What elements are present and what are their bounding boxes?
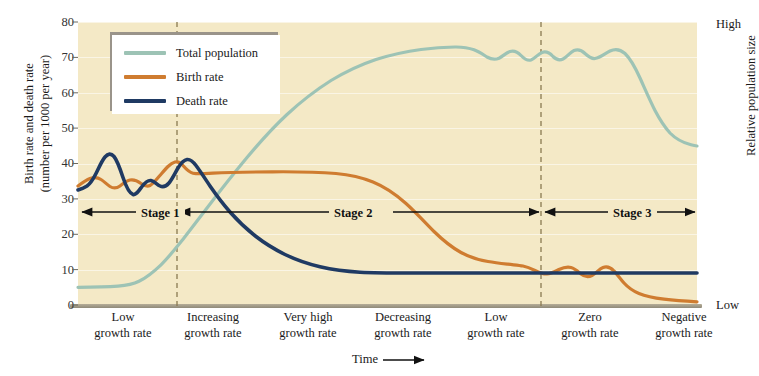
x-axis-title: Time: [352, 352, 378, 367]
legend-label-birth-rate: Birth rate: [176, 70, 224, 85]
right-axis-high-label: High: [716, 17, 741, 32]
x-label-6-line2: growth rate: [629, 326, 739, 342]
gridline-10: [78, 270, 697, 271]
y-axis-title: Birth rate and death rate (number per 10…: [22, 9, 53, 239]
legend-swatch-death-rate: [124, 99, 166, 103]
y-axis-title-line1: Birth rate and death rate: [22, 9, 38, 239]
legend-swatch-birth-rate: [124, 75, 166, 79]
legend-item-total-population[interactable]: Total population: [112, 41, 280, 65]
stage-label-3: Stage 3: [608, 206, 657, 221]
x-label-1-line1: Increasing: [158, 310, 268, 326]
gridline-50: [78, 128, 697, 129]
legend-label-death-rate: Death rate: [176, 94, 228, 109]
right-axis-title: Relative population size: [744, 1, 759, 191]
y-axis-title-line2: (number per 1000 per year): [38, 9, 54, 239]
y-tick-10: 10: [34, 264, 74, 277]
legend-item-death-rate[interactable]: Death rate: [112, 89, 280, 113]
x-axis-baseline: [70, 304, 702, 308]
stage-label-1: Stage 1: [136, 206, 185, 221]
gridline-20: [78, 234, 697, 235]
gridline-40: [78, 164, 697, 165]
stage-label-2: Stage 2: [329, 206, 378, 221]
x-label-6-line1: Negative: [629, 310, 739, 326]
x-label-2-line2: growth rate: [253, 326, 363, 342]
x-label-2-line1: Very high: [253, 310, 363, 326]
legend-label-total-population: Total population: [176, 46, 258, 61]
x-label-6: Negative growth rate: [629, 310, 739, 341]
x-label-2: Very high growth rate: [253, 310, 363, 341]
legend: Total population Birth rate Death rate: [112, 35, 280, 114]
legend-item-birth-rate[interactable]: Birth rate: [112, 65, 280, 89]
x-label-1: Increasing growth rate: [158, 310, 268, 341]
gridline-30: [78, 199, 697, 200]
gridline-80: [78, 22, 697, 23]
legend-swatch-total-population: [124, 51, 166, 55]
x-label-1-line2: growth rate: [158, 326, 268, 342]
